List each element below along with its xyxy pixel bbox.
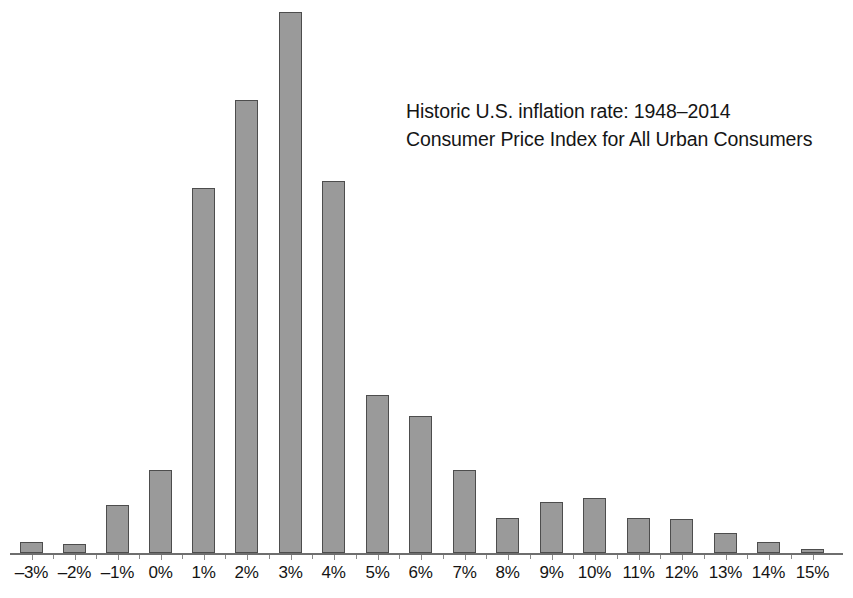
x-tick — [291, 555, 292, 560]
x-tick-label: 7% — [452, 563, 476, 583]
x-tick — [465, 555, 466, 560]
x-tick-label: 4% — [321, 563, 345, 583]
x-tick-minor — [356, 555, 357, 559]
x-tick-minor — [312, 555, 313, 559]
x-tick-minor — [53, 555, 54, 559]
bar-2pct — [235, 100, 258, 553]
bar-10pct — [583, 498, 606, 553]
x-axis-line — [10, 553, 843, 555]
x-tick-label: 1% — [191, 563, 215, 583]
x-tick-label: 3% — [278, 563, 302, 583]
x-tick-label: –3% — [15, 563, 48, 583]
annotation-line-title: Historic U.S. inflation rate: 1948–2014 — [406, 98, 836, 126]
x-tick-minor — [225, 555, 226, 559]
x-tick — [247, 555, 248, 560]
bar-8pct — [496, 518, 519, 553]
x-tick-minor — [573, 555, 574, 559]
x-tick-label: 11% — [622, 563, 654, 583]
x-tick-minor — [704, 555, 705, 559]
x-tick-label: 12% — [665, 563, 698, 583]
x-tick — [118, 555, 119, 560]
x-tick — [726, 555, 727, 560]
bar-neg3pct — [20, 542, 43, 553]
x-tick-label: –1% — [101, 563, 134, 583]
x-tick-minor — [617, 555, 618, 559]
x-tick-label: 10% — [578, 563, 611, 583]
x-tick-label: 2% — [234, 563, 258, 583]
x-tick-minor — [399, 555, 400, 559]
x-tick-label: 13% — [709, 563, 742, 583]
x-tick-minor — [96, 555, 97, 559]
x-tick-label: –2% — [58, 563, 91, 583]
bar-4pct — [322, 181, 345, 553]
x-tick — [508, 555, 509, 560]
x-tick-label: 15% — [796, 563, 829, 583]
bar-neg1pct — [106, 505, 129, 553]
bar-11pct — [627, 518, 650, 553]
x-tick — [595, 555, 596, 560]
bar-7pct — [453, 470, 476, 553]
bar-13pct — [714, 533, 737, 553]
x-tick-minor — [791, 555, 792, 559]
bar-9pct — [540, 502, 563, 553]
x-tick — [32, 555, 33, 560]
x-tick-minor — [530, 555, 531, 559]
x-tick — [334, 555, 335, 560]
x-tick — [639, 555, 640, 560]
x-tick — [75, 555, 76, 560]
x-tick-minor — [443, 555, 444, 559]
x-tick-label: 9% — [539, 563, 563, 583]
x-tick — [813, 555, 814, 560]
x-tick — [378, 555, 379, 560]
x-tick-label: 14% — [752, 563, 785, 583]
bar-3pct — [279, 12, 302, 553]
x-tick — [552, 555, 553, 560]
chart-annotation: Historic U.S. inflation rate: 1948–2014 … — [406, 98, 836, 153]
x-tick — [769, 555, 770, 560]
x-tick-minor — [747, 555, 748, 559]
bar-12pct — [670, 519, 693, 553]
x-tick-minor — [139, 555, 140, 559]
bar-0pct — [149, 470, 172, 553]
x-tick — [682, 555, 683, 560]
x-tick-minor — [486, 555, 487, 559]
bar-5pct — [366, 395, 389, 553]
x-tick-label: 8% — [495, 563, 519, 583]
x-tick-label: 5% — [365, 563, 389, 583]
x-tick-label: 0% — [148, 563, 172, 583]
plot-area: –3%–2%–1%0%1%2%3%4%5%6%7%8%9%10%11%12%13… — [0, 0, 853, 598]
bar-1pct — [192, 188, 215, 553]
x-tick — [161, 555, 162, 560]
annotation-line-subtitle: Consumer Price Index for All Urban Consu… — [406, 126, 836, 154]
x-tick-minor — [269, 555, 270, 559]
x-tick — [421, 555, 422, 560]
x-tick-label: 6% — [408, 563, 432, 583]
x-tick-minor — [660, 555, 661, 559]
bar-neg2pct — [63, 544, 86, 553]
x-tick-minor — [182, 555, 183, 559]
x-tick — [204, 555, 205, 560]
bar-6pct — [409, 416, 432, 553]
bar-14pct — [757, 542, 780, 553]
histogram-chart: –3%–2%–1%0%1%2%3%4%5%6%7%8%9%10%11%12%13… — [0, 0, 853, 598]
